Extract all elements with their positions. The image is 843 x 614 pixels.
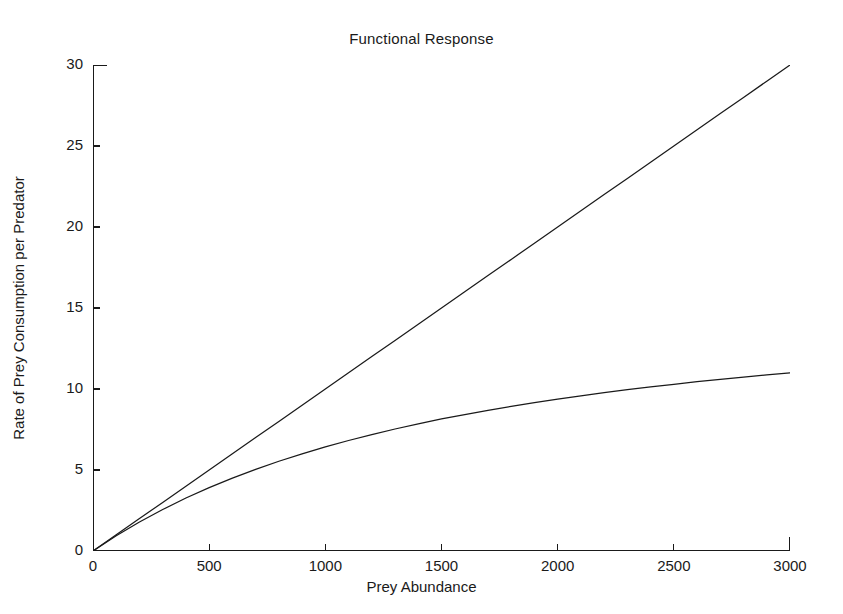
- plot-svg: [93, 65, 790, 551]
- x-tick-label: 2000: [508, 557, 608, 574]
- y-tick-label: 30: [33, 55, 83, 72]
- chart-title: Functional Response: [0, 30, 843, 47]
- y-tick-label: 5: [33, 460, 83, 477]
- x-axis-label: Prey Abundance: [0, 578, 843, 595]
- y-tick-label: 20: [33, 217, 83, 234]
- y-axis-label: Rate of Prey Consumption per Predator: [10, 176, 27, 439]
- series-line: [93, 65, 790, 551]
- x-tick-label: 500: [159, 557, 259, 574]
- y-tick-label: 25: [33, 136, 83, 153]
- y-tick-label: 0: [33, 541, 83, 558]
- x-tick-label: 1000: [275, 557, 375, 574]
- y-tick-label: 15: [33, 298, 83, 315]
- series-lines: [93, 65, 790, 551]
- figure-canvas: Functional Response Rate of Prey Consump…: [0, 0, 843, 614]
- x-tick-label: 0: [43, 557, 143, 574]
- x-tick-label: 1500: [392, 557, 492, 574]
- x-tick-label: 2500: [624, 557, 724, 574]
- plot-area: [93, 65, 790, 551]
- x-tick-label: 3000: [740, 557, 840, 574]
- series-line: [93, 373, 790, 551]
- y-tick-label: 10: [33, 379, 83, 396]
